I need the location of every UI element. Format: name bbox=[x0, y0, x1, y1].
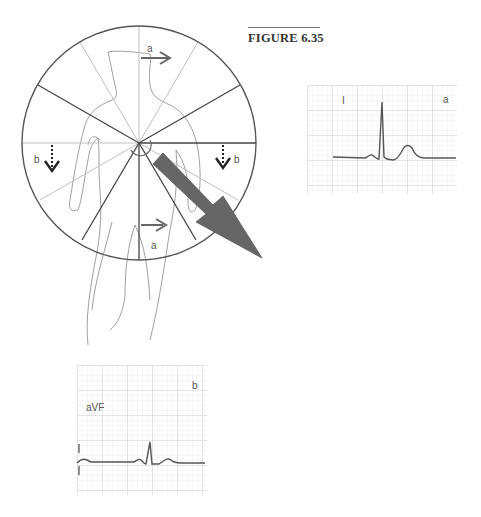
label-left-b: b bbox=[34, 154, 40, 165]
body-outline bbox=[69, 51, 200, 345]
avf-dotted-arrow-left: b bbox=[34, 145, 59, 171]
ecg-strip-lead-i: I a bbox=[307, 85, 457, 193]
lead-label-i: I bbox=[342, 95, 345, 106]
label-bottom-a: a bbox=[151, 240, 157, 251]
lead-label-avf: aVF bbox=[86, 402, 104, 413]
avf-dotted-arrow-right: b bbox=[216, 145, 240, 168]
label-top-a: a bbox=[147, 43, 153, 54]
label-right-b: b bbox=[234, 154, 240, 165]
ecg-strip-lead-avf: aVF b bbox=[77, 365, 207, 495]
strip-b-corner-label: b bbox=[192, 380, 198, 391]
lead-i-axis-arrow-bottom: a bbox=[141, 219, 166, 251]
mean-qrs-axis-vector bbox=[153, 153, 262, 258]
strip-a-corner-label: a bbox=[443, 94, 449, 105]
